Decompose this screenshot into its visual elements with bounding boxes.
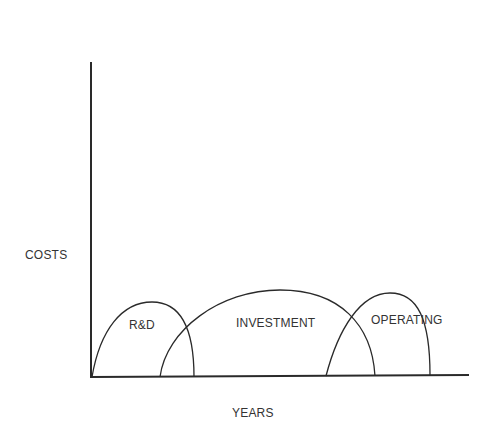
y-axis-label: COSTS [25, 248, 67, 262]
cost-phases-diagram [0, 0, 494, 436]
rd-phase-curve [92, 302, 194, 377]
phase-label-operating: OPERATING [371, 313, 443, 327]
x-axis [91, 375, 469, 377]
operating-phase-curve [326, 293, 430, 376]
phase-label-rd: R&D [129, 318, 155, 332]
phase-label-investment: INVESTMENT [236, 316, 315, 330]
x-axis-label: YEARS [232, 406, 274, 420]
investment-phase-curve [160, 290, 375, 377]
